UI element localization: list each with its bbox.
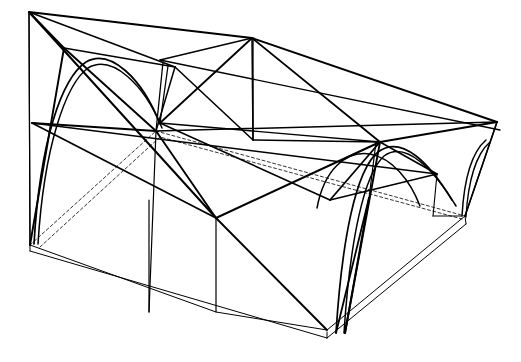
structural-wireframe-drawing (0, 0, 521, 362)
drawing-background (0, 0, 521, 362)
wireframe-svg-root (0, 0, 521, 362)
